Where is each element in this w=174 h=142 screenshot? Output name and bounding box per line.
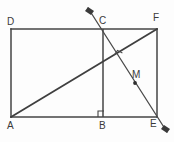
arrow-head-top-icon <box>85 7 94 15</box>
vertex-label-E: E <box>150 119 157 129</box>
vertex-label-B: B <box>99 121 106 131</box>
point-M-marker <box>133 81 137 85</box>
transversal-CE-line <box>88 8 167 132</box>
vertex-label-D: D <box>7 17 14 27</box>
vertex-label-C: C <box>99 16 106 26</box>
vertex-label-F: F <box>153 13 159 23</box>
arrow-head-bottom-icon <box>161 125 170 133</box>
vertex-label-M: M <box>132 70 140 80</box>
vertex-label-A: A <box>7 121 14 131</box>
figure-canvas <box>0 0 174 142</box>
geometry-figure: D C F M A B E <box>0 0 174 142</box>
